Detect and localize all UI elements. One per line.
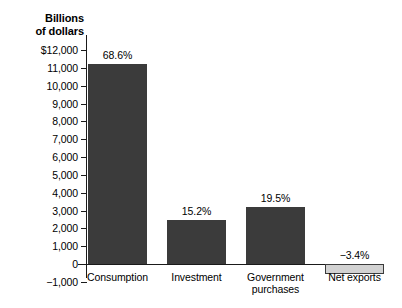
bar-government-purchases bbox=[246, 207, 305, 264]
y-tick-mark-12 bbox=[81, 264, 87, 265]
y-tick-label-7: 5,000 bbox=[0, 170, 78, 180]
y-tick-label-10: 2,000 bbox=[0, 223, 78, 233]
y-tick-label-12: 0 bbox=[0, 259, 78, 269]
y-tick-mark-5 bbox=[81, 139, 87, 140]
y-tick-label-0: $12,000 bbox=[0, 45, 78, 55]
y-tick-label-4: 8,000 bbox=[0, 116, 78, 126]
bar-investment bbox=[167, 220, 226, 264]
category-label-investment: Investment bbox=[157, 271, 236, 283]
category-label-government-purchases: Government purchases bbox=[236, 271, 315, 295]
y-tick-label-9: 3,000 bbox=[0, 206, 78, 216]
bar-chart: Billions of dollars $12,000 11,000 10,00… bbox=[0, 0, 402, 308]
bar-consumption bbox=[88, 64, 147, 264]
value-label-consumption: 68.6% bbox=[78, 50, 157, 61]
y-tick-label-13: −1,000 bbox=[0, 277, 78, 287]
y-tick-mark-4 bbox=[81, 121, 87, 122]
y-tick-label-6: 6,000 bbox=[0, 152, 78, 162]
y-tick-mark-2 bbox=[81, 86, 87, 87]
value-label-investment: 15.2% bbox=[157, 206, 236, 217]
y-tick-label-2: 10,000 bbox=[0, 81, 78, 91]
y-tick-mark-8 bbox=[81, 193, 87, 194]
y-tick-label-11: 1,000 bbox=[0, 241, 78, 251]
y-tick-label-8: 4,000 bbox=[0, 188, 78, 198]
category-label-net-exports: Net exports bbox=[315, 271, 394, 283]
y-tick-mark-7 bbox=[81, 175, 87, 176]
y-tick-mark-10 bbox=[81, 228, 87, 229]
category-label-consumption: Consumption bbox=[78, 271, 157, 283]
y-tick-label-5: 7,000 bbox=[0, 134, 78, 144]
y-tick-mark-9 bbox=[81, 211, 87, 212]
value-label-government-purchases: 19.5% bbox=[236, 193, 315, 204]
value-label-net-exports: −3.4% bbox=[315, 250, 394, 261]
y-tick-label-3: 9,000 bbox=[0, 99, 78, 109]
y-tick-mark-1 bbox=[81, 68, 87, 69]
y-tick-label-1: 11,000 bbox=[0, 63, 78, 73]
y-tick-mark-11 bbox=[81, 246, 87, 247]
y-axis-title: Billions of dollars bbox=[0, 12, 84, 37]
y-tick-mark-3 bbox=[81, 104, 87, 105]
y-tick-mark-6 bbox=[81, 157, 87, 158]
